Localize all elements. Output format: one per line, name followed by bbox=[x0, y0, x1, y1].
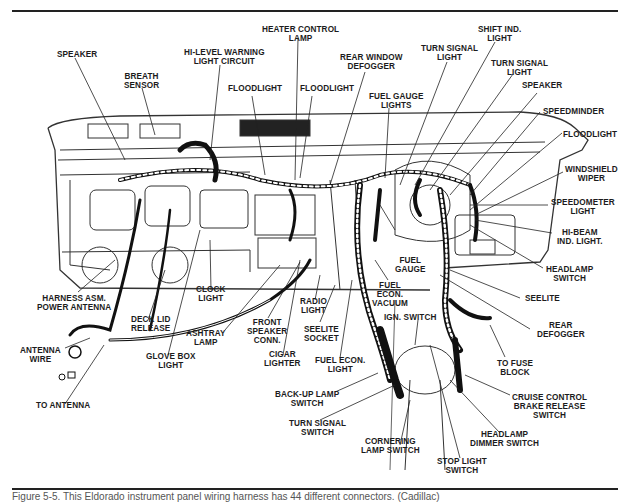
label-to-fuse-block: TO FUSE BLOCK bbox=[497, 359, 533, 377]
label-fuel-econ-light: FUEL ECON. LIGHT bbox=[315, 356, 365, 374]
label-headlamp-switch: HEADLAMP SWITCH bbox=[546, 265, 593, 283]
label-stop-light-switch: STOP LIGHT SWITCH bbox=[437, 457, 487, 475]
label-radio-light: RADIO LIGHT bbox=[300, 297, 327, 315]
label-rear-defogger: REAR DEFOGGER bbox=[537, 321, 585, 339]
label-hi-level-warning: HI-LEVEL WARNING LIGHT CIRCUIT bbox=[184, 48, 265, 66]
label-rear-window-defogger: REAR WINDOW DEFOGGER bbox=[340, 53, 403, 71]
label-turn-signal-light-1: TURN SIGNAL LIGHT bbox=[421, 44, 478, 62]
label-fuel-econ-vacuum: FUEL ECON. VACUUM bbox=[372, 281, 408, 308]
label-cornering-lamp-switch: CORNERING LAMP SWITCH bbox=[361, 437, 420, 455]
label-speedometer-light: SPEEDOMETER LIGHT bbox=[551, 198, 615, 216]
label-turn-signal-switch: TURN SIGNAL SWITCH bbox=[289, 419, 346, 437]
label-harness-power-antenna: HARNESS ASM. POWER ANTENNA bbox=[37, 294, 111, 312]
label-antenna-wire: ANTENNA WIRE bbox=[20, 346, 61, 364]
label-breath-sensor: BREATH SENSOR bbox=[124, 72, 159, 90]
label-seelite-socket: SEELITE SOCKET bbox=[304, 325, 339, 343]
label-headlamp-dimmer: HEADLAMP DIMMER SWITCH bbox=[470, 430, 539, 448]
label-fuel-gauge-lights: FUEL GAUGE LIGHTS bbox=[369, 92, 424, 110]
label-cigar-lighter: CIGAR LIGHTER bbox=[264, 350, 301, 368]
label-speaker-left: SPEAKER bbox=[57, 50, 97, 59]
label-hi-beam-ind-light: HI-BEAM IND. LIGHT. bbox=[557, 228, 603, 246]
label-backup-lamp-switch: BACK-UP LAMP SWITCH bbox=[275, 390, 339, 408]
label-cruise-control: CRUISE CONTROL BRAKE RELEASE SWITCH bbox=[512, 393, 587, 420]
label-ashtray-lamp: ASHTRAY LAMP bbox=[186, 329, 226, 347]
label-speaker-right: SPEAKER bbox=[522, 81, 562, 90]
label-windshield-wiper: WINDSHIELD WIPER bbox=[565, 165, 618, 183]
label-heater-control-lamp: HEATER CONTROL LAMP bbox=[262, 25, 339, 43]
label-fuel-gauge: FUEL GAUGE bbox=[395, 256, 426, 274]
label-turn-signal-light-2: TURN SIGNAL LIGHT bbox=[491, 59, 548, 77]
label-ign-switch: IGN. SWITCH bbox=[384, 313, 437, 322]
label-seelite: SEELITE bbox=[525, 294, 560, 303]
label-deck-lid-release: DECK LID RELEASE bbox=[131, 315, 170, 333]
label-shift-ind-light: SHIFT IND. LIGHT bbox=[478, 25, 521, 43]
label-floodlight-1: FLOODLIGHT bbox=[228, 84, 282, 93]
label-front-speaker-conn: FRONT SPEAKER CONN. bbox=[247, 318, 287, 345]
label-floodlight-right: FLOODLIGHT bbox=[563, 130, 617, 139]
label-clock-light: CLOCK LIGHT bbox=[196, 285, 226, 303]
figure-caption: Figure 5-5. This Eldorado instrument pan… bbox=[12, 491, 440, 502]
label-glove-box-light: GLOVE BOX LIGHT bbox=[146, 352, 196, 370]
label-floodlight-2: FLOODLIGHT bbox=[300, 84, 354, 93]
label-to-antenna: TO ANTENNA bbox=[36, 401, 90, 410]
label-speedminder: SPEEDMINDER bbox=[543, 107, 604, 116]
